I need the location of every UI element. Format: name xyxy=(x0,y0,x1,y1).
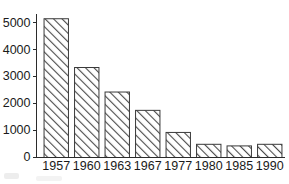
x-axis-tick-label: 1977 xyxy=(164,159,192,173)
x-axis-tick-label: 1963 xyxy=(103,159,131,173)
bar-1963 xyxy=(105,92,129,157)
bar-1967 xyxy=(136,110,160,157)
bar-1985 xyxy=(227,146,251,158)
bar-1977 xyxy=(166,132,190,157)
y-axis-tick-label: 3000 xyxy=(3,69,31,83)
x-axis-tick-label: 1960 xyxy=(73,159,101,173)
chart-canvas: 010002000300040005000 195719601963196719… xyxy=(0,0,289,184)
y-axis-tick-labels: 010002000300040005000 xyxy=(3,16,37,165)
x-axis-tick-label: 1985 xyxy=(225,159,253,173)
bars-group xyxy=(44,19,282,158)
y-axis-tick-label: 5000 xyxy=(3,16,31,30)
scan-artifact-secondary xyxy=(36,176,62,181)
axes-group xyxy=(37,14,286,158)
scan-artifact xyxy=(4,173,19,179)
bar-1990 xyxy=(258,144,282,157)
x-axis-tick-label: 1990 xyxy=(256,159,284,173)
y-axis-tick-label: 4000 xyxy=(3,43,31,57)
bar-1960 xyxy=(75,68,99,158)
bar-1980 xyxy=(197,144,221,157)
x-axis-tick-label: 1980 xyxy=(195,159,223,173)
y-axis-tick-label: 2000 xyxy=(3,96,31,110)
bar-chart-figure: 010002000300040005000 195719601963196719… xyxy=(0,0,289,184)
x-axis-tick-label: 1967 xyxy=(134,159,162,173)
x-axis-tick-labels: 19571960196319671977198019851990 xyxy=(42,159,283,173)
y-axis-tick-label: 0 xyxy=(24,150,31,164)
y-axis-tick-label: 1000 xyxy=(3,123,31,137)
bar-1957 xyxy=(44,19,68,158)
x-axis-tick-label: 1957 xyxy=(42,159,70,173)
